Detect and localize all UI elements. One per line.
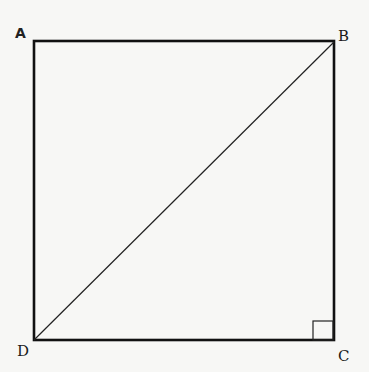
vertex-label-c: C [338,347,349,365]
vertex-label-d: D [17,342,29,360]
vertex-label-b: B [338,27,349,45]
vertex-label-a: A [15,25,26,41]
right-angle-marker [313,321,333,340]
square-diagram: A B C D [0,0,369,372]
diagonal-db [34,42,334,340]
